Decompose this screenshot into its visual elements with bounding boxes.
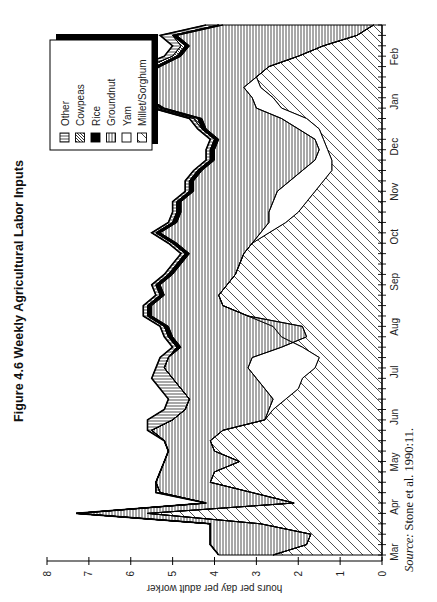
month-label: May — [389, 452, 400, 471]
month-label: Dec — [389, 138, 400, 156]
y-tick-label: 1 — [335, 571, 346, 577]
legend-swatch-millet-sorghum — [138, 133, 147, 142]
month-label: Nov — [389, 183, 400, 201]
legend-swatch-yam — [122, 133, 131, 142]
legend-swatch-other — [60, 133, 69, 142]
stacked-area-chart: 012345678MarAprMayJunJulAugSepOctNovDecJ… — [0, 0, 437, 602]
month-label: Jan — [389, 94, 400, 110]
legend-label: Rice — [91, 106, 102, 126]
y-tick-label: 3 — [251, 571, 262, 577]
legend-label: Cowpeas — [75, 84, 86, 126]
rotated-figure-page: Figure 4.6 Weekly Agricultural Labor Inp… — [0, 0, 437, 602]
source-prefix: Source: — [402, 534, 416, 572]
month-label: Oct — [389, 229, 400, 245]
month-label: Sep — [389, 272, 400, 290]
legend-label: Millet/Sorghum — [137, 59, 148, 126]
y-tick-label: 4 — [209, 571, 220, 577]
legend-label: Other — [60, 100, 71, 126]
y-axis-label: hours per day per adult worker — [146, 583, 282, 594]
legend-label: Groundnut — [106, 79, 117, 126]
month-label: Jul — [389, 365, 400, 378]
y-tick-label: 6 — [125, 571, 136, 577]
y-tick-label: 0 — [377, 571, 388, 577]
legend-swatch-cowpeas — [76, 133, 85, 142]
month-label: Apr — [389, 499, 400, 515]
legend: OtherCowpeasRiceGroundnutYamMillet/Sorgh… — [50, 34, 158, 150]
legend-swatch-groundnut — [107, 133, 116, 142]
month-label: Mar — [389, 543, 400, 561]
source-text: Stone et al. 1990:11. — [402, 428, 416, 534]
month-label: Feb — [389, 48, 400, 66]
month-label: Aug — [389, 318, 400, 336]
month-label: Jun — [389, 409, 400, 425]
legend-swatch-rice — [91, 133, 100, 142]
y-tick-label: 2 — [293, 571, 304, 577]
source-note: Source: Stone et al. 1990:11. — [402, 428, 417, 572]
y-tick-label: 5 — [167, 571, 178, 577]
y-tick-label: 8 — [42, 571, 53, 577]
legend-label: Yam — [122, 106, 133, 126]
y-tick-label: 7 — [83, 571, 94, 577]
